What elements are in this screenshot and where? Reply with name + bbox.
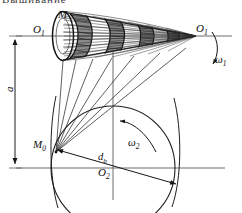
label-contact-point-bottom: M0 xyxy=(33,139,46,153)
figure-canvas: Вышивание xyxy=(0,0,242,213)
label-wheel-center: O2 xyxy=(98,167,110,181)
contact-point-markers xyxy=(55,151,58,154)
worm-wheel xyxy=(51,96,180,213)
center-distance-dimension xyxy=(9,36,22,168)
label-contact-point-top: M xyxy=(58,9,67,20)
label-base-diameter: db xyxy=(98,152,107,165)
label-omega-wheel: ω2 xyxy=(128,137,140,151)
label-omega-worm: ω1 xyxy=(215,54,227,68)
label-worm-apex: O1 xyxy=(196,23,208,37)
label-center-distance: a xyxy=(4,87,15,93)
axis-lines xyxy=(16,36,232,200)
label-worm-axis-left: O1 xyxy=(33,24,45,38)
base-diameter-dimension xyxy=(58,150,176,184)
